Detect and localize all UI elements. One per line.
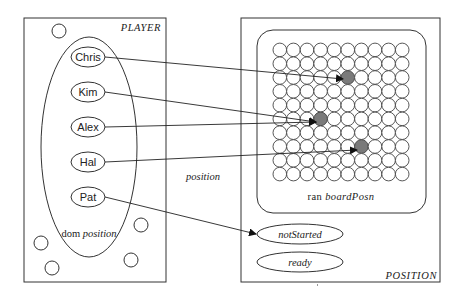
board-cell bbox=[382, 98, 396, 112]
board-cell bbox=[300, 167, 314, 181]
board-cell bbox=[355, 43, 369, 57]
board-cell bbox=[273, 167, 287, 181]
board-cell bbox=[341, 57, 355, 71]
board-cell bbox=[327, 43, 341, 57]
board-cell bbox=[314, 57, 328, 71]
board-cell bbox=[300, 140, 314, 154]
board-cell bbox=[368, 71, 382, 85]
board-range-label: ran boardPosn bbox=[308, 191, 375, 202]
board-cell bbox=[395, 140, 409, 154]
board-cell bbox=[382, 140, 396, 154]
board-cell bbox=[314, 85, 328, 99]
board-cell bbox=[368, 154, 382, 168]
board-cell bbox=[341, 112, 355, 126]
board-cell bbox=[355, 98, 369, 112]
board-cell bbox=[355, 154, 369, 168]
board-cell bbox=[382, 43, 396, 57]
board-cell bbox=[314, 167, 328, 181]
board-cell bbox=[287, 154, 301, 168]
stray-mark bbox=[317, 284, 318, 286]
player-kim: Kim bbox=[71, 82, 105, 102]
board-cell bbox=[355, 57, 369, 71]
board-cell bbox=[300, 112, 314, 126]
board-cell bbox=[341, 43, 355, 57]
board-cell bbox=[341, 140, 355, 154]
board-cell bbox=[327, 57, 341, 71]
domain-label-prefix: dom bbox=[61, 228, 80, 239]
board-cell bbox=[368, 126, 382, 140]
loose-element bbox=[124, 253, 138, 267]
player-alex: Alex bbox=[71, 117, 105, 137]
board-cell bbox=[300, 98, 314, 112]
loose-element bbox=[134, 218, 148, 232]
board-cell bbox=[314, 126, 328, 140]
board-range-prefix: ran bbox=[308, 191, 323, 202]
board-cell bbox=[368, 57, 382, 71]
board-cell bbox=[341, 167, 355, 181]
board-cell bbox=[368, 140, 382, 154]
board-cell bbox=[300, 154, 314, 168]
board-cell bbox=[395, 167, 409, 181]
board-cell bbox=[395, 57, 409, 71]
board-cell bbox=[287, 71, 301, 85]
board-cell bbox=[273, 112, 287, 126]
board-cell bbox=[382, 71, 396, 85]
state-ready: ready bbox=[257, 252, 343, 272]
board-cell bbox=[273, 98, 287, 112]
board-cell bbox=[327, 85, 341, 99]
state-label: notStarted bbox=[278, 229, 322, 240]
board-cell bbox=[314, 98, 328, 112]
player-list: ChrisKimAlexHalPat bbox=[71, 47, 105, 207]
board-cell bbox=[341, 85, 355, 99]
board-cell bbox=[382, 167, 396, 181]
board-cell bbox=[273, 140, 287, 154]
board-cell bbox=[287, 57, 301, 71]
player-name: Hal bbox=[80, 156, 97, 168]
player-pat: Pat bbox=[71, 187, 105, 207]
board-cell bbox=[300, 85, 314, 99]
board-cell bbox=[382, 85, 396, 99]
board-cell bbox=[273, 154, 287, 168]
board-cell bbox=[395, 154, 409, 168]
player-name: Chris bbox=[75, 51, 101, 63]
board-cell bbox=[355, 85, 369, 99]
board-cell bbox=[395, 98, 409, 112]
domain-oval bbox=[41, 37, 137, 257]
board-cell bbox=[273, 85, 287, 99]
state-notStarted: notStarted bbox=[257, 224, 343, 244]
board-cell bbox=[395, 43, 409, 57]
board-cell bbox=[273, 126, 287, 140]
domain-label: dom position bbox=[61, 228, 116, 239]
state-list: notStartedready bbox=[257, 224, 343, 272]
board-grid bbox=[273, 43, 409, 181]
board-cell bbox=[273, 43, 287, 57]
board-cell bbox=[327, 98, 341, 112]
relation-label: position bbox=[185, 171, 220, 182]
player-name: Kim bbox=[79, 86, 98, 98]
board-cell bbox=[287, 85, 301, 99]
board-cell bbox=[382, 154, 396, 168]
board-cell bbox=[341, 154, 355, 168]
board-cell bbox=[287, 167, 301, 181]
board-cell bbox=[314, 43, 328, 57]
board-cell bbox=[341, 98, 355, 112]
player-set: PLAYER dom position ChrisKimAlexHalPat bbox=[24, 18, 166, 282]
player-chris: Chris bbox=[71, 47, 105, 67]
board-cell bbox=[287, 126, 301, 140]
board-cell bbox=[273, 57, 287, 71]
board-cell bbox=[327, 154, 341, 168]
board-cell bbox=[368, 167, 382, 181]
board-cell bbox=[395, 112, 409, 126]
board-cell bbox=[368, 43, 382, 57]
board-cell bbox=[300, 71, 314, 85]
mapping-arrow-pat bbox=[105, 197, 256, 234]
loose-element bbox=[34, 236, 48, 250]
board-cell bbox=[368, 112, 382, 126]
board-cell bbox=[368, 85, 382, 99]
board-cell bbox=[382, 112, 396, 126]
board-cell-occupied bbox=[341, 71, 355, 85]
board-cell bbox=[341, 126, 355, 140]
board-cell bbox=[355, 112, 369, 126]
player-hal: Hal bbox=[71, 152, 105, 172]
state-label: ready bbox=[288, 257, 312, 268]
